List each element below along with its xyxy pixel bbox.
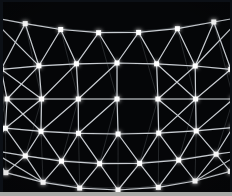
lattice-node bbox=[115, 97, 120, 102]
lattice-svg bbox=[0, 0, 232, 196]
lattice-node bbox=[23, 153, 28, 158]
lattice-node bbox=[211, 20, 216, 25]
lattice-node bbox=[156, 185, 161, 190]
lattice-node bbox=[231, 97, 232, 102]
lattice-node bbox=[116, 132, 121, 137]
lattice-node bbox=[76, 131, 81, 136]
lattice-node bbox=[193, 97, 198, 102]
lattice-node bbox=[228, 67, 232, 72]
lattice-node bbox=[176, 158, 181, 163]
lattice-node bbox=[137, 161, 142, 166]
lattice-node bbox=[39, 129, 44, 134]
lattice-node bbox=[228, 169, 232, 174]
lattice-node bbox=[97, 161, 102, 166]
lattice-node bbox=[41, 180, 46, 185]
lattice-node bbox=[58, 27, 63, 32]
lattice-node bbox=[3, 126, 8, 131]
lattice-node bbox=[96, 30, 101, 35]
lattice-node bbox=[230, 125, 232, 130]
lattice-image bbox=[0, 0, 232, 196]
lattice-node bbox=[74, 61, 79, 66]
lattice-node bbox=[115, 61, 120, 66]
lattice-node bbox=[36, 63, 41, 68]
lattice-node bbox=[23, 21, 28, 26]
lattice-node bbox=[39, 97, 44, 102]
lattice-node bbox=[214, 152, 219, 157]
lattice-node bbox=[193, 64, 198, 69]
lattice-node bbox=[77, 186, 82, 191]
lattice-node bbox=[3, 170, 8, 175]
lattice-node bbox=[193, 179, 198, 184]
lattice-node bbox=[154, 61, 159, 66]
lattice-node bbox=[194, 128, 199, 133]
lattice-node bbox=[116, 188, 121, 193]
lattice-node bbox=[0, 67, 4, 72]
lattice-node bbox=[175, 26, 180, 31]
lattice-node bbox=[76, 97, 81, 102]
lattice-node bbox=[5, 97, 10, 102]
lattice-node bbox=[155, 97, 160, 102]
lattice-node bbox=[136, 30, 141, 35]
lattice-node bbox=[156, 131, 161, 136]
lattice-node bbox=[59, 159, 64, 164]
